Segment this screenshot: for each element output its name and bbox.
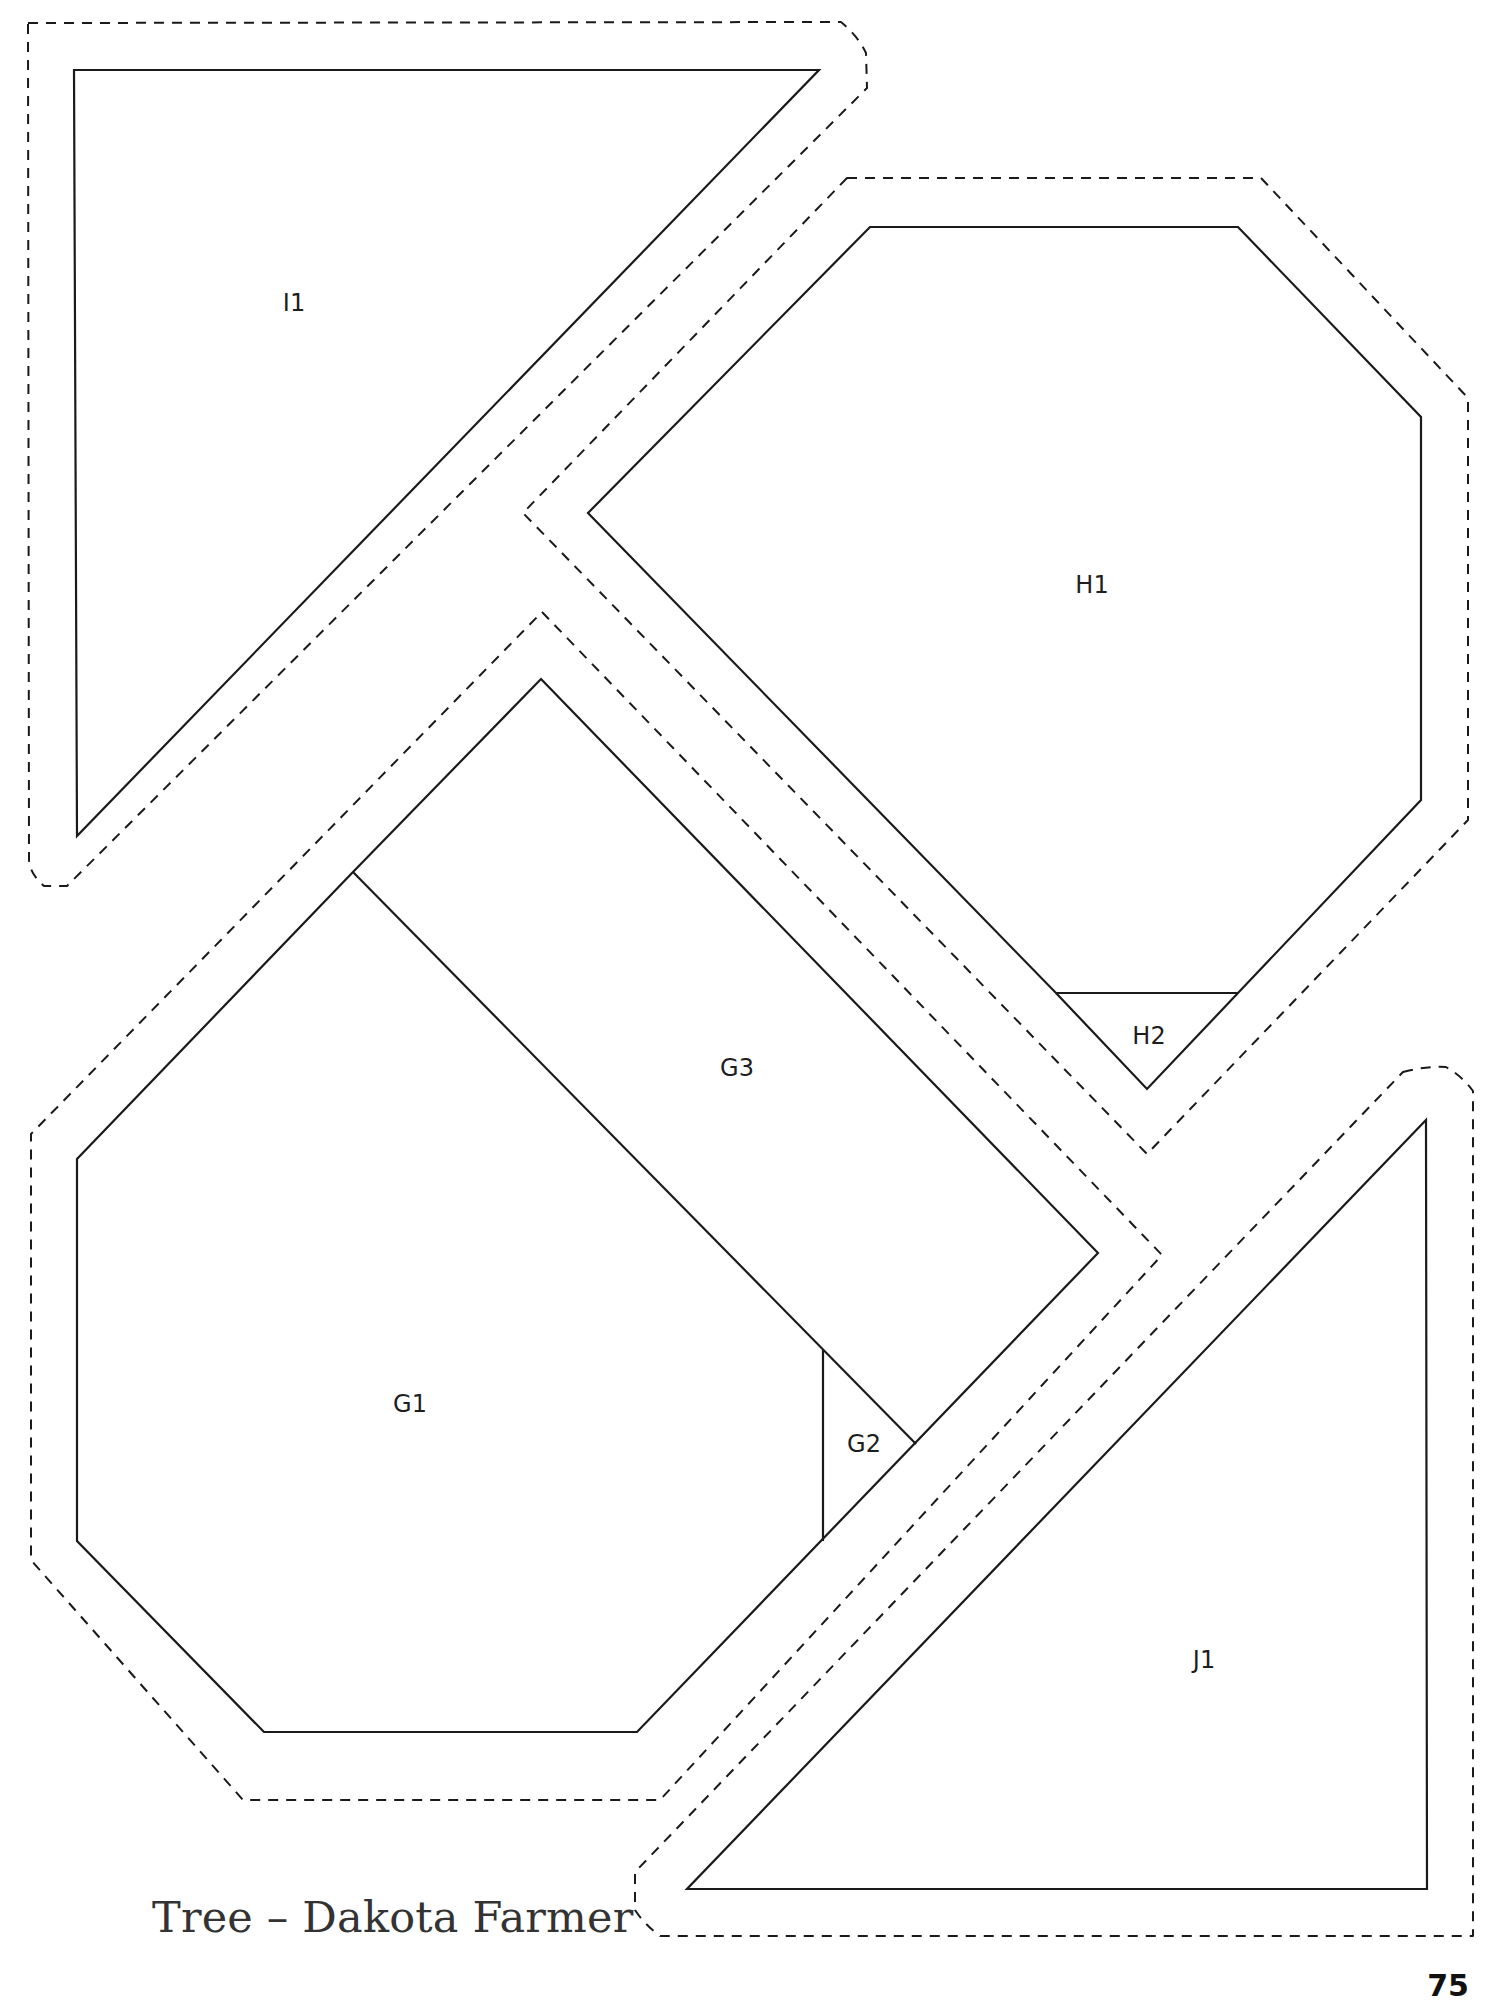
label-j1: J1 — [1193, 1646, 1215, 1674]
template-h — [523, 178, 1468, 1154]
label-h1: H1 — [1075, 571, 1108, 599]
piece-j1 — [687, 1120, 1427, 1889]
label-g3: G3 — [720, 1054, 754, 1082]
template-j — [635, 1067, 1473, 1936]
piece-i1 — [74, 70, 819, 836]
seam-allowance-j — [635, 1067, 1473, 1936]
page-number: 75 — [1427, 1968, 1469, 2002]
label-g1: G1 — [393, 1390, 427, 1418]
template-g — [31, 612, 1162, 1800]
pattern-page: I1 H1 H2 G3 G1 G2 J1 Tree – Dakota Farme… — [0, 0, 1491, 2002]
seam-g1-g3 — [353, 872, 916, 1444]
piece-h1 — [588, 227, 1421, 993]
seam-allowance-h — [523, 178, 1468, 1154]
label-g2: G2 — [847, 1430, 881, 1458]
seam-allowance-g — [31, 612, 1162, 1800]
label-h2: H2 — [1132, 1022, 1165, 1050]
pattern-diagram — [0, 0, 1491, 2002]
template-i — [28, 22, 867, 886]
piece-g-outline — [77, 679, 1098, 1732]
label-i1: I1 — [283, 289, 305, 317]
pattern-caption: Tree – Dakota Farmer — [152, 1892, 634, 1942]
